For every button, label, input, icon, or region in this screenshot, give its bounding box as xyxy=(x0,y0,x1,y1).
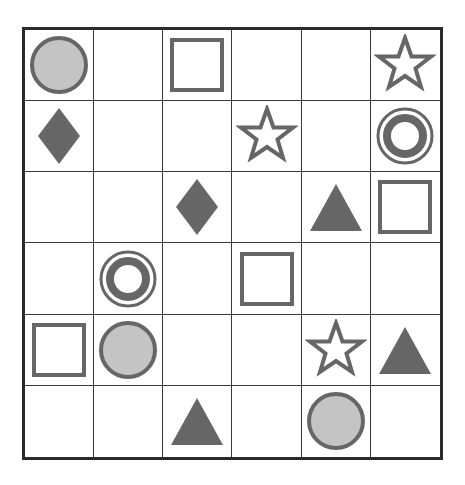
grid-cell-r3-c5[interactable] xyxy=(371,243,440,314)
grid-cell-r0-c4[interactable] xyxy=(302,30,371,101)
grid-cell-r3-c1[interactable] xyxy=(94,243,163,314)
grid-cell-r5-c5[interactable] xyxy=(371,386,440,457)
grid-cell-r3-c0[interactable] xyxy=(25,243,94,314)
circle-icon xyxy=(97,319,159,381)
square-icon xyxy=(236,248,298,310)
grid-cell-r2-c0[interactable] xyxy=(25,172,94,243)
square-icon xyxy=(374,176,436,238)
grid-cell-r3-c3[interactable] xyxy=(232,243,301,314)
grid-cell-r4-c1[interactable] xyxy=(94,315,163,386)
grid-cell-r2-c3[interactable] xyxy=(232,172,301,243)
grid-cell-r2-c5[interactable] xyxy=(371,172,440,243)
star-icon xyxy=(305,319,367,381)
grid-cell-r4-c3[interactable] xyxy=(232,315,301,386)
grid-cell-r2-c2[interactable] xyxy=(163,172,232,243)
grid-cell-r5-c2[interactable] xyxy=(163,386,232,457)
grid-cell-r0-c5[interactable] xyxy=(371,30,440,101)
grid-cell-r0-c3[interactable] xyxy=(232,30,301,101)
triangle-icon xyxy=(374,319,436,381)
square-icon xyxy=(28,319,90,381)
grid-cell-r1-c2[interactable] xyxy=(163,101,232,172)
star-icon xyxy=(374,34,436,96)
triangle-icon xyxy=(305,176,367,238)
triangle-icon xyxy=(166,390,228,452)
grid-cell-r1-c3[interactable] xyxy=(232,101,301,172)
ring-icon xyxy=(97,248,159,310)
grid-cell-r0-c0[interactable] xyxy=(25,30,94,101)
grid-cell-r1-c0[interactable] xyxy=(25,101,94,172)
grid-cell-r5-c3[interactable] xyxy=(232,386,301,457)
grid-cell-r0-c2[interactable] xyxy=(163,30,232,101)
star-icon xyxy=(236,105,298,167)
diamond-icon xyxy=(166,176,228,238)
grid-cell-r4-c4[interactable] xyxy=(302,315,371,386)
grid-cell-r4-c0[interactable] xyxy=(25,315,94,386)
grid-cell-r3-c2[interactable] xyxy=(163,243,232,314)
grid-cell-r5-c1[interactable] xyxy=(94,386,163,457)
grid-cell-r5-c0[interactable] xyxy=(25,386,94,457)
square-icon xyxy=(166,34,228,96)
circle-icon xyxy=(28,34,90,96)
grid-cell-r4-c5[interactable] xyxy=(371,315,440,386)
grid-cell-r2-c4[interactable] xyxy=(302,172,371,243)
circle-icon xyxy=(305,390,367,452)
puzzle-grid xyxy=(22,27,443,460)
ring-icon xyxy=(374,105,436,167)
grid-cell-r3-c4[interactable] xyxy=(302,243,371,314)
grid-cell-r0-c1[interactable] xyxy=(94,30,163,101)
grid-cell-r1-c4[interactable] xyxy=(302,101,371,172)
grid-cell-r2-c1[interactable] xyxy=(94,172,163,243)
grid-cell-r1-c1[interactable] xyxy=(94,101,163,172)
diamond-icon xyxy=(28,105,90,167)
grid-cell-r1-c5[interactable] xyxy=(371,101,440,172)
grid-cell-r4-c2[interactable] xyxy=(163,315,232,386)
grid-cell-r5-c4[interactable] xyxy=(302,386,371,457)
